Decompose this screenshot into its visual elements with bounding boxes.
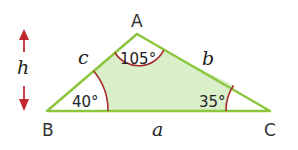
angle-label-c: 35°: [199, 93, 226, 111]
vertex-label-a: A: [131, 11, 143, 31]
vertex-label-c: C: [264, 120, 276, 140]
side-label-b: b: [202, 47, 214, 69]
angle-label-a: 105°: [120, 50, 156, 68]
height-label: h: [17, 56, 29, 78]
angle-label-b: 40°: [72, 93, 99, 111]
side-label-a: a: [152, 118, 163, 140]
side-label-c: c: [78, 46, 89, 68]
vertex-label-b: B: [42, 120, 54, 140]
triangle-diagram: h A B C a b c 105° 40° 35°: [0, 0, 298, 150]
